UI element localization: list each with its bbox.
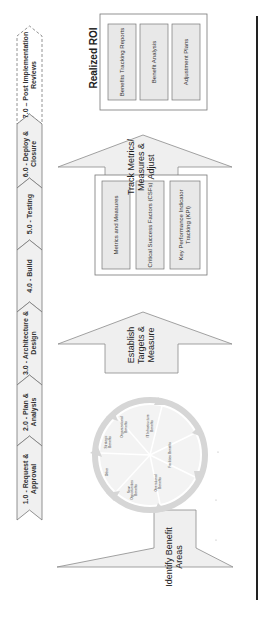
wheel-label-strategic: Strategic Benefits: [104, 431, 114, 453]
phase-label-4: 4.0 - Build: [19, 246, 41, 306]
roi-item-1: Benefits Tracking Reports: [108, 24, 136, 100]
arrow-establish-label: Establish Targets & Measure: [122, 315, 162, 375]
roi-item-2: Benefit Analysis: [140, 24, 168, 100]
phase-label-1: 1.0 - Request & Approval: [19, 446, 41, 512]
metrics-item-2: Critical Success Factors (CSFs): [136, 181, 164, 269]
phase-label-5: 5.0 - Testing: [19, 184, 41, 244]
wheel-label-other: Other: [104, 462, 112, 482]
phase-label-2: 2.0 - Plan & Analysis: [19, 386, 41, 438]
metrics-item-3: Key Performance Indicator Tracking (KPI): [170, 181, 200, 269]
wheel-label-organizational: Organizational Benefits: [120, 414, 130, 440]
wheel-label-new-opportunities: New Opportunities Benefits: [127, 477, 139, 503]
wheel-label-operational: Operational Benefits: [154, 470, 164, 496]
phase-label-6: 6.0 - Deploy & Closure: [19, 124, 41, 184]
wheel-label-facilities: Facilities Benefits: [166, 442, 176, 468]
metrics-item-1: Metrics and Measures: [102, 181, 130, 269]
wheel-label-it-infrastructure: IT Infrastructure Benefits: [145, 413, 157, 439]
roi-item-3: Adjustment Plans: [172, 24, 200, 100]
arrow-identify-label: Identify Benefit Areas: [158, 527, 192, 587]
phase-label-3: 3.0 - Architecture & Design: [19, 305, 41, 381]
phase-label-7: 7.0 – Post Implementation Reviews: [19, 30, 41, 120]
roi-title: Realized ROI: [85, 23, 101, 93]
